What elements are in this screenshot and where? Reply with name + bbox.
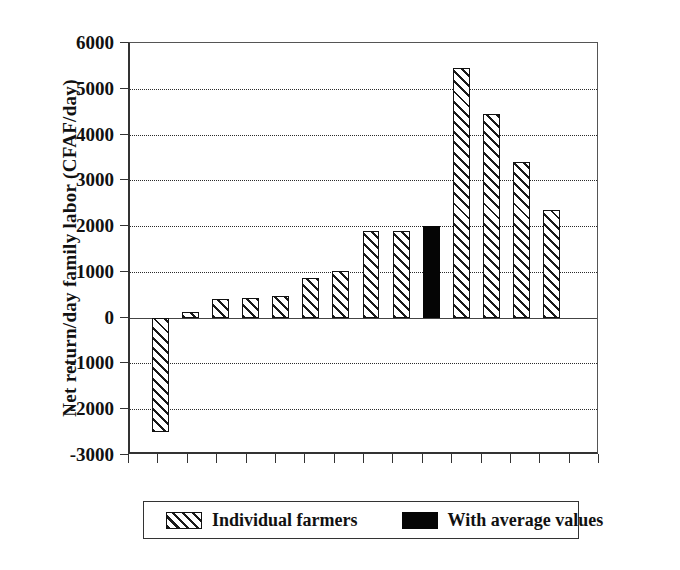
bar-individual-3 <box>242 298 259 317</box>
legend-label-average: With average values <box>448 510 604 531</box>
bar-individual-10 <box>453 68 470 317</box>
x-tick-10 <box>422 454 423 463</box>
y-tick-label--1000: -1000 <box>48 353 114 372</box>
x-tick-8 <box>363 454 364 463</box>
legend-label-individual: Individual farmers <box>212 510 358 531</box>
x-tick-15 <box>569 454 570 463</box>
x-tick-14 <box>539 454 540 463</box>
gridline-4000 <box>130 135 597 136</box>
x-tick-4 <box>246 454 247 463</box>
x-tick-6 <box>304 454 305 463</box>
bar-individual-11 <box>483 114 500 318</box>
chart-legend: Individual farmers With average values <box>143 501 579 539</box>
bar-individual-12 <box>513 162 530 318</box>
y-tick-label-4000: 4000 <box>48 125 114 144</box>
y-tick-label-6000: 6000 <box>48 33 114 52</box>
legend-swatch-hatched-icon <box>166 512 202 529</box>
bar-individual-5 <box>302 278 319 318</box>
y-tick-label-1000: 1000 <box>48 262 114 281</box>
legend-entry-individual: Individual farmers <box>166 510 358 531</box>
y-tick-label-0: 0 <box>48 308 114 327</box>
legend-entry-average: With average values <box>402 510 604 531</box>
gridline--1000 <box>130 363 597 364</box>
x-tick-16 <box>598 454 599 463</box>
bar-individual-7 <box>363 231 380 318</box>
x-tick-5 <box>275 454 276 463</box>
legend-swatch-solid-icon <box>402 512 438 529</box>
y-tick-label--3000: -3000 <box>48 445 114 464</box>
x-tick-1 <box>157 454 158 463</box>
x-tick-12 <box>481 454 482 463</box>
x-tick-0 <box>128 454 129 463</box>
bar-individual-8 <box>393 231 410 318</box>
x-tick-13 <box>510 454 511 463</box>
chart-page: Net return/day family labor (CFAF/day) 6… <box>0 0 680 570</box>
y-tick-label-5000: 5000 <box>48 79 114 98</box>
bar-individual-0 <box>152 318 169 432</box>
bar-average <box>423 226 440 318</box>
zero-line <box>130 318 597 319</box>
x-tick-9 <box>392 454 393 463</box>
x-tick-2 <box>187 454 188 463</box>
x-tick-11 <box>451 454 452 463</box>
x-tick-3 <box>216 454 217 463</box>
gridline-5000 <box>130 89 597 90</box>
bar-individual-4 <box>272 296 289 318</box>
plot-area <box>128 42 598 454</box>
bar-individual-2 <box>212 299 229 317</box>
bar-individual-1 <box>182 312 199 318</box>
gridline--2000 <box>130 409 597 410</box>
x-tick-7 <box>334 454 335 463</box>
y-tick-label-3000: 3000 <box>48 170 114 189</box>
bar-individual-13 <box>543 210 560 318</box>
y-tick-label--2000: -2000 <box>48 399 114 418</box>
y-tick-label-2000: 2000 <box>48 216 114 235</box>
bar-individual-6 <box>332 271 349 317</box>
